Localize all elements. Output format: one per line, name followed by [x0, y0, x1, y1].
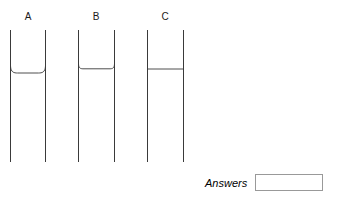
tube-b-meniscus-flat-rounded: [79, 64, 115, 69]
tube-a-meniscus-concave: [11, 66, 46, 73]
answers-input-box[interactable]: [255, 174, 323, 191]
tube-c: [148, 30, 184, 162]
tube-b: [79, 30, 115, 162]
tube-label-a: A: [18, 12, 38, 22]
tube-label-b: B: [86, 12, 106, 22]
answers-label: Answers: [205, 177, 247, 189]
answers-row: Answers: [205, 174, 323, 191]
tube-label-c: C: [155, 12, 175, 22]
tube-a: [11, 30, 46, 162]
